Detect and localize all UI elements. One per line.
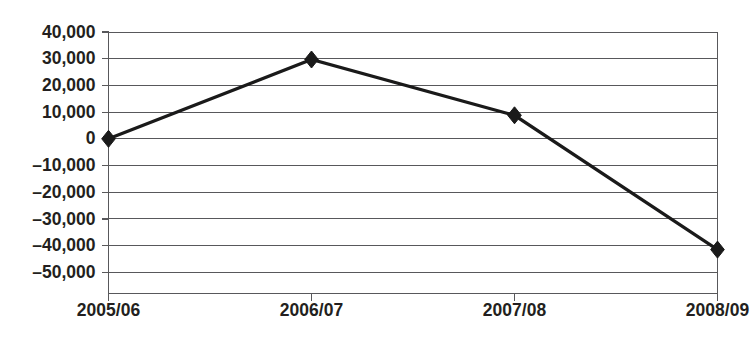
axis-tickmarks — [102, 32, 718, 301]
data-point-marker — [102, 130, 116, 147]
x-axis-tick-label: 2005/06 — [77, 300, 141, 320]
y-axis-tick-label: –50,000 — [32, 262, 96, 282]
y-axis-tick-labels: 40,00030,00020,00010,0000–10,000–20,000–… — [32, 22, 96, 282]
chart-canvas: 40,00030,00020,00010,0000–10,000–20,000–… — [0, 0, 752, 343]
line-chart: 40,00030,00020,00010,0000–10,000–20,000–… — [0, 0, 752, 343]
y-axis-tick-label: –10,000 — [32, 155, 96, 175]
y-axis-tick-label: –20,000 — [32, 182, 96, 202]
y-axis-tick-label: –40,000 — [32, 235, 96, 255]
series-markers — [102, 51, 725, 258]
y-axis-tick-label: 20,000 — [42, 75, 96, 95]
y-axis-tick-label: 40,000 — [42, 22, 96, 42]
y-axis-tick-label: –30,000 — [32, 209, 96, 229]
y-axis-tick-label: 30,000 — [42, 48, 96, 68]
y-axis-tick-label: 0 — [86, 128, 96, 148]
x-axis-tick-label: 2007/08 — [483, 300, 547, 320]
data-point-marker — [711, 241, 725, 258]
gridlines — [109, 32, 718, 272]
x-axis-tick-labels: 2005/062006/072007/082008/09 — [77, 300, 750, 320]
data-point-marker — [508, 107, 522, 124]
y-axis-tick-label: 10,000 — [42, 102, 96, 122]
x-axis-tick-label: 2006/07 — [280, 300, 343, 320]
x-axis-tick-label: 2008/09 — [686, 300, 750, 320]
series-line-path — [109, 60, 718, 250]
data-point-marker — [305, 51, 319, 68]
